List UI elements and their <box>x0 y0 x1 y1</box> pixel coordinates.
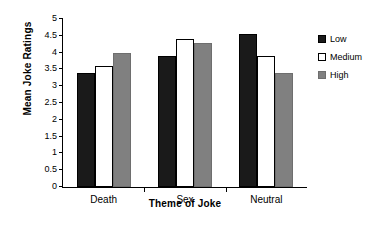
y-axis-tick-label: 0.5 <box>44 164 57 175</box>
bar-neutral-low <box>239 34 257 187</box>
y-axis-tick-mark <box>59 68 63 69</box>
bar-death-medium <box>95 66 113 187</box>
y-axis-tick-label: 4 <box>52 47 57 58</box>
bar-neutral-medium <box>257 56 275 187</box>
y-axis-tick-mark <box>59 136 63 137</box>
y-axis-tick-mark <box>59 119 63 120</box>
bar-chart: Mean Joke Ratings 00.511.522.533.544.55D… <box>0 0 373 237</box>
legend-swatch-icon <box>318 35 326 43</box>
y-axis-tick-label: 2 <box>52 114 57 125</box>
chart-legend: LowMediumHigh <box>318 30 362 84</box>
y-axis-tick-label: 3 <box>52 80 57 91</box>
bar-sex-high <box>194 43 212 187</box>
y-axis-tick-label: 1 <box>52 147 57 158</box>
x-axis-tick-mark <box>226 187 227 192</box>
x-axis-tick-mark <box>144 187 145 192</box>
legend-swatch-icon <box>318 71 326 79</box>
bar-sex-low <box>158 56 176 187</box>
y-axis-tick-label: 5 <box>52 13 57 24</box>
y-axis-line <box>62 19 63 188</box>
y-axis-tick-mark <box>59 35 63 36</box>
legend-item-label: High <box>330 70 349 80</box>
bar-sex-medium <box>176 39 194 187</box>
plot-area: 00.511.522.533.544.55DeathSexNeutral <box>63 19 307 187</box>
y-axis-tick-label: 4.5 <box>44 30 57 41</box>
legend-item-low[interactable]: Low <box>318 30 362 48</box>
y-axis-tick-mark <box>59 152 63 153</box>
legend-item-label: Low <box>330 34 347 44</box>
bar-death-high <box>113 53 131 187</box>
y-axis-tick-label: 3.5 <box>44 63 57 74</box>
y-axis-tick-mark <box>59 85 63 86</box>
legend-item-high[interactable]: High <box>318 66 362 84</box>
y-axis-tick-mark <box>59 102 63 103</box>
y-axis-tick-mark <box>59 169 63 170</box>
legend-swatch-icon <box>318 53 326 61</box>
legend-item-label: Medium <box>330 52 362 62</box>
y-axis-tick-mark <box>59 18 63 19</box>
bar-death-low <box>77 73 95 187</box>
bar-neutral-high <box>275 73 293 187</box>
y-axis-title: Mean Joke Ratings <box>22 0 33 144</box>
x-axis-line <box>62 187 307 188</box>
y-axis-tick-label: 1.5 <box>44 131 57 142</box>
legend-item-medium[interactable]: Medium <box>318 48 362 66</box>
y-axis-tick-mark <box>59 186 63 187</box>
y-axis-tick-label: 2.5 <box>44 97 57 108</box>
y-axis-tick-mark <box>59 52 63 53</box>
x-axis-title: Theme of Joke <box>63 198 307 209</box>
y-axis-tick-label: 0 <box>52 181 57 192</box>
